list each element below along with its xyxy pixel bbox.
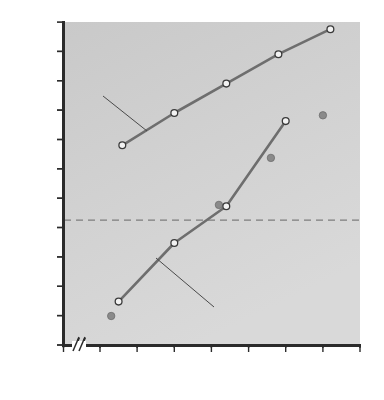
left-margin-mask <box>0 0 57 400</box>
bottom-margin-mask <box>0 348 384 400</box>
alcohol-point-60 <box>171 110 178 117</box>
top-margin-mask <box>0 0 384 22</box>
alkane-point-44 <box>108 312 115 319</box>
right-margin-mask <box>361 0 384 400</box>
alkane-point-86 <box>267 154 274 161</box>
alcohol-point-88 <box>275 51 282 58</box>
alkane-point-100 <box>319 112 326 119</box>
plot-area-background <box>63 22 360 345</box>
alcohol-point-74 <box>223 80 230 87</box>
ether-point-45 <box>115 298 122 305</box>
alkane-point-72 <box>215 201 222 208</box>
alcohol-point-102 <box>327 26 334 33</box>
plot-canvas <box>0 0 384 400</box>
boiling-point-vs-molecular-weight-chart: Boiling point (°C) Molecular weight 160 … <box>0 0 384 400</box>
ether-point-90 <box>282 118 289 125</box>
alcohol-point-46 <box>119 142 126 149</box>
ether-point-74 <box>223 203 230 210</box>
ether-point-60 <box>171 240 178 247</box>
